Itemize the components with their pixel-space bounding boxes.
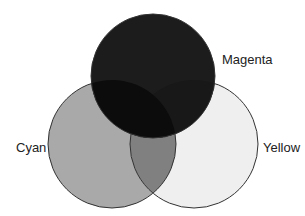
magenta-label: Magenta bbox=[222, 52, 273, 67]
venn-diagram: Magenta Cyan Yellow bbox=[0, 0, 305, 216]
yellow-label: Yellow bbox=[263, 140, 301, 155]
cyan-label: Cyan bbox=[16, 140, 46, 155]
